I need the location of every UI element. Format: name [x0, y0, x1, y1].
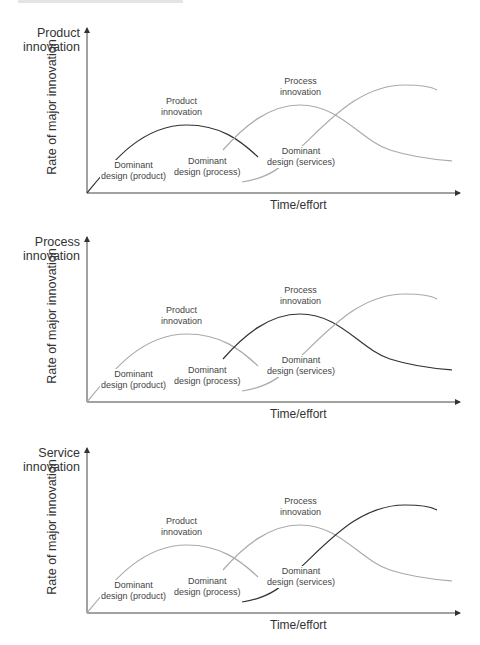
label-dominant-design-process: Dominant design (process) [173, 365, 242, 387]
focus-label: Process innovation [0, 235, 80, 263]
label-dominant-design-product: Dominant design (product) [100, 580, 167, 602]
label-dominant-design-product: Dominant design (product) [100, 160, 167, 182]
x-axis-title: Time/effort [270, 407, 327, 421]
label-dominant-design-services: Dominant design (services) [266, 566, 336, 588]
focus-label: Product innovation [0, 26, 80, 54]
label-dominant-design-process: Dominant design (process) [173, 156, 242, 178]
label-process-innovation: Process innovation [279, 285, 322, 307]
y-axis-title: Rate of major innovation [45, 27, 59, 187]
label-product-innovation: Product innovation [160, 96, 203, 118]
label-product-innovation: Product innovation [160, 516, 203, 538]
label-process-innovation: Process innovation [279, 496, 322, 518]
x-axis-title: Time/effort [270, 618, 327, 632]
label-dominant-design-services: Dominant design (services) [266, 146, 336, 168]
label-dominant-design-process: Dominant design (process) [173, 576, 242, 598]
label-dominant-design-product: Dominant design (product) [100, 369, 167, 391]
label-product-innovation: Product innovation [160, 305, 203, 327]
label-process-innovation: Process innovation [279, 76, 322, 98]
panel-product-innovation: Product innovation Rate of major innovat… [0, 0, 480, 215]
y-axis-title: Rate of major innovation [45, 447, 59, 607]
focus-label: Service innovation [0, 446, 80, 474]
panel-process-innovation: Process innovation Rate of major innovat… [0, 209, 480, 424]
panel-service-innovation: Service innovation Rate of major innovat… [0, 420, 480, 635]
label-dominant-design-services: Dominant design (services) [266, 355, 336, 377]
y-axis-title: Rate of major innovation [45, 236, 59, 396]
